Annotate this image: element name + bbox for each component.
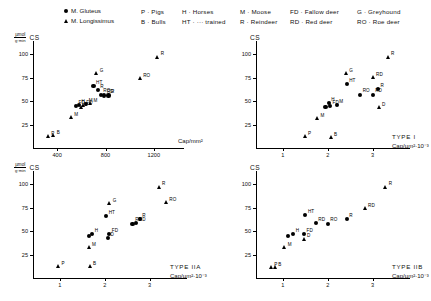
- x-axis-tick: [154, 148, 155, 151]
- figure-legend: M. Gluteus M. Longissimus P · Pigs B · B…: [0, 4, 431, 30]
- y-axis-tick-label: 25: [235, 122, 251, 128]
- data-point-longissimus: [155, 55, 159, 59]
- data-point-label: P: [62, 261, 65, 266]
- x-axis-tick-label: 1: [48, 282, 72, 288]
- data-point-gluteus: [106, 93, 110, 97]
- data-point-gluteus: [323, 105, 327, 109]
- legend-entry-fallow-deer: FD · Fallow deer: [290, 7, 339, 17]
- data-point-label: R: [349, 213, 352, 218]
- data-point-label: R: [161, 51, 164, 56]
- data-point-label: B: [57, 130, 60, 135]
- panel-label-type-iib: TYPE IIB: [392, 263, 423, 270]
- y-axis-tick: [30, 78, 33, 79]
- data-point-longissimus: [302, 237, 306, 241]
- data-point-longissimus: [377, 105, 381, 109]
- data-point-longissimus: [88, 101, 92, 105]
- data-point-label: RD: [368, 203, 375, 208]
- x-axis-tick-label: 800: [94, 152, 118, 158]
- data-point-longissimus: [363, 206, 367, 210]
- y-axis-tick-label: 50: [235, 98, 251, 104]
- y-axis-quantity: CS: [29, 34, 39, 41]
- data-point-longissimus: [69, 115, 73, 119]
- data-point-label: R: [381, 83, 384, 88]
- y-axis-tick: [30, 184, 33, 185]
- filled-circle-icon: [64, 9, 68, 13]
- y-axis-tick: [253, 125, 256, 126]
- data-point-gluteus: [106, 236, 110, 240]
- x-axis-tick: [283, 148, 284, 151]
- x-axis-line: [256, 278, 410, 279]
- y-axis-unit-denominator: g·min: [14, 168, 26, 173]
- y-axis-tick-label: 25: [12, 122, 28, 128]
- y-axis-tick-label: 50: [12, 98, 28, 104]
- y-axis-tick-label: 100: [235, 181, 251, 187]
- legend-entry-bulls: B · Bulls: [141, 17, 166, 27]
- y-axis-tick: [253, 255, 256, 256]
- panel-top-right: CS 123255075100HFDMHTRORDRPBMGRDDR TYPE …: [215, 32, 431, 160]
- data-point-label: P: [308, 131, 311, 136]
- panel-label-type-iia: TYPE IIA: [170, 263, 201, 270]
- y-axis-tick: [30, 208, 33, 209]
- data-point-gluteus: [286, 234, 290, 238]
- data-point-longissimus: [282, 245, 286, 249]
- data-point-longissimus: [138, 76, 142, 80]
- data-point-label: M: [288, 242, 292, 247]
- y-axis-tick: [253, 54, 256, 55]
- y-axis-tick-label: 25: [12, 252, 28, 258]
- data-point-longissimus: [157, 185, 161, 189]
- y-axis-tick-label: 25: [235, 252, 251, 258]
- data-point-label: RD: [376, 72, 383, 77]
- x-axis-label-text: Cap/µm²·10⁻³: [392, 273, 429, 279]
- data-point-label: M: [339, 99, 343, 104]
- data-point-gluteus: [96, 88, 100, 92]
- data-point-longissimus: [273, 265, 277, 269]
- y-axis-unit-denominator: g·min: [14, 38, 26, 43]
- y-axis-tick: [253, 231, 256, 232]
- legend-entry-red-deer: RD · Red deer: [290, 17, 333, 27]
- data-point-label: FD: [307, 228, 313, 233]
- data-point-gluteus: [291, 232, 295, 236]
- x-axis-label-text: Cap/µm²·10⁻³: [392, 143, 429, 149]
- legend-symbol-gluteus-label: M. Gluteus: [71, 7, 101, 14]
- data-point-label: D: [307, 233, 310, 238]
- data-point-longissimus: [386, 55, 390, 59]
- x-axis-line: [33, 148, 184, 149]
- data-point-longissimus: [164, 200, 168, 204]
- x-axis-tick-label: 1200: [142, 152, 166, 158]
- x-axis-label-text: Cap/µm²·10⁻³: [170, 273, 207, 279]
- data-point-label: B: [278, 262, 281, 267]
- data-point-gluteus: [328, 104, 332, 108]
- data-point-longissimus: [371, 75, 375, 79]
- legend-entry-horses: H · Horses: [182, 7, 214, 17]
- legend-symbol-gluteus: M. Gluteus: [64, 7, 101, 15]
- data-point-longissimus: [303, 134, 307, 138]
- data-point-longissimus: [344, 71, 348, 75]
- y-axis-tick-label: 75: [235, 75, 251, 81]
- data-point-gluteus: [371, 93, 375, 97]
- x-axis-tick-label: 400: [45, 152, 69, 158]
- data-point-label: H: [95, 228, 98, 233]
- y-axis-tick-label: 50: [235, 228, 251, 234]
- data-point-longissimus: [315, 116, 319, 120]
- data-point-label: G: [349, 68, 353, 73]
- x-axis-tick-label: 2: [93, 282, 117, 288]
- y-axis-quantity: CS: [29, 164, 39, 171]
- y-axis-tick-label: 100: [12, 51, 28, 57]
- data-point-label: HT: [308, 209, 314, 214]
- y-axis-tick-label: 75: [12, 75, 28, 81]
- filled-triangle-icon: [64, 19, 68, 23]
- data-point-label: M: [74, 112, 78, 117]
- x-axis-tick-label: 3: [138, 282, 162, 288]
- plot-area-top-left: 4008001200255075100FDHMHTRRORDRPBMDFDMGR…: [33, 45, 178, 148]
- panel-bottom-right: CS 123255075100HFDHTRDRORPBMDRDR TYPE II…: [215, 162, 431, 301]
- x-axis-tick-label: 2: [316, 152, 340, 158]
- legend-entry-roe-deer: RO · Roe deer: [357, 17, 400, 27]
- x-axis-tick: [373, 278, 374, 281]
- x-axis-tick: [283, 278, 284, 281]
- data-point-label: FD: [112, 228, 118, 233]
- legend-entry-pigs: P · Pigs: [141, 7, 164, 17]
- data-point-label: R: [142, 213, 145, 218]
- data-point-label: M: [94, 98, 98, 103]
- data-point-label: H: [296, 228, 299, 233]
- y-axis-line: [256, 171, 257, 278]
